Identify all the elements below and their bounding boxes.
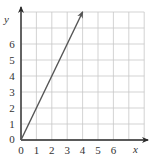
- y-tick-label: 4: [9, 70, 15, 82]
- line-chart: 01234560123456 x y: [0, 0, 154, 160]
- y-tick-label: 2: [9, 102, 15, 114]
- y-axis-label: y: [3, 13, 9, 25]
- y-tick-label: 3: [9, 86, 15, 98]
- x-tick-label: 5: [95, 144, 101, 156]
- x-tick-label: 1: [34, 144, 40, 156]
- grid: [21, 12, 144, 140]
- y-tick-label: 0: [9, 133, 15, 145]
- x-tick-label: 3: [64, 144, 70, 156]
- y-tick-label: 1: [9, 118, 15, 130]
- x-tick-label: 2: [49, 144, 55, 156]
- tick-labels: 01234560123456: [9, 38, 116, 156]
- y-tick-label: 6: [9, 38, 15, 50]
- x-tick-label: 0: [18, 144, 24, 156]
- x-axis-label: x: [132, 143, 138, 155]
- x-tick-label: 4: [80, 144, 86, 156]
- x-tick-label: 6: [111, 144, 117, 156]
- y-tick-label: 5: [9, 54, 15, 66]
